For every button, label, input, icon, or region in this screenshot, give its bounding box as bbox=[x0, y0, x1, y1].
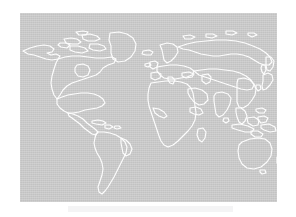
new-guinea-outline bbox=[261, 124, 276, 132]
sulawesi-outline bbox=[258, 116, 268, 123]
greenland-outline bbox=[109, 32, 136, 62]
new-siberian-islands-outline bbox=[248, 33, 257, 37]
hispaniola-outline bbox=[105, 125, 113, 129]
horn-of-africa-outline bbox=[190, 107, 203, 115]
africa-outline bbox=[148, 81, 196, 147]
usa-outline bbox=[57, 93, 105, 113]
iberia-outline bbox=[151, 72, 161, 80]
madagascar-outline bbox=[197, 128, 206, 142]
svalbard-outline bbox=[183, 35, 195, 39]
sakhalin-outline bbox=[261, 65, 266, 74]
hudson-bay-outline bbox=[75, 64, 90, 77]
arabian-peninsula-outline bbox=[188, 88, 208, 105]
iceland-outline bbox=[142, 50, 153, 55]
siberia-north-coast-outline bbox=[178, 40, 272, 65]
mexico-central-america-outline bbox=[68, 113, 98, 135]
figure-caption-band bbox=[68, 206, 233, 212]
arctic-island-4 bbox=[89, 44, 106, 51]
page-root bbox=[0, 0, 296, 217]
arctic-island-3 bbox=[70, 46, 88, 53]
japan-outline bbox=[262, 73, 273, 90]
scandinavia-outline bbox=[160, 43, 178, 63]
java-outline bbox=[251, 131, 263, 137]
gulf-of-guinea bbox=[153, 108, 167, 118]
world-map-coastlines bbox=[20, 13, 277, 202]
central-asia-outline bbox=[194, 69, 254, 90]
cuba-outline bbox=[92, 120, 106, 125]
korea-outline bbox=[256, 85, 261, 91]
philippines-outline bbox=[256, 108, 266, 113]
novaya-zemlya-outline bbox=[206, 34, 217, 38]
tasmania-outline bbox=[260, 170, 266, 174]
world-map-image bbox=[20, 13, 277, 202]
indochina-outline bbox=[236, 108, 247, 124]
china-coast-outline bbox=[237, 78, 256, 108]
india-outline bbox=[214, 92, 231, 117]
puerto-rico-outline bbox=[114, 126, 121, 129]
severnaya-zemlya-outline bbox=[226, 31, 237, 35]
alaska-outline bbox=[23, 45, 60, 60]
arctic-island-5 bbox=[58, 43, 70, 48]
borneo-outline bbox=[247, 117, 259, 126]
south-america-outline bbox=[94, 132, 127, 194]
arctic-island-6 bbox=[76, 31, 88, 35]
sri-lanka-outline bbox=[223, 118, 229, 123]
australia-outline bbox=[238, 138, 272, 169]
